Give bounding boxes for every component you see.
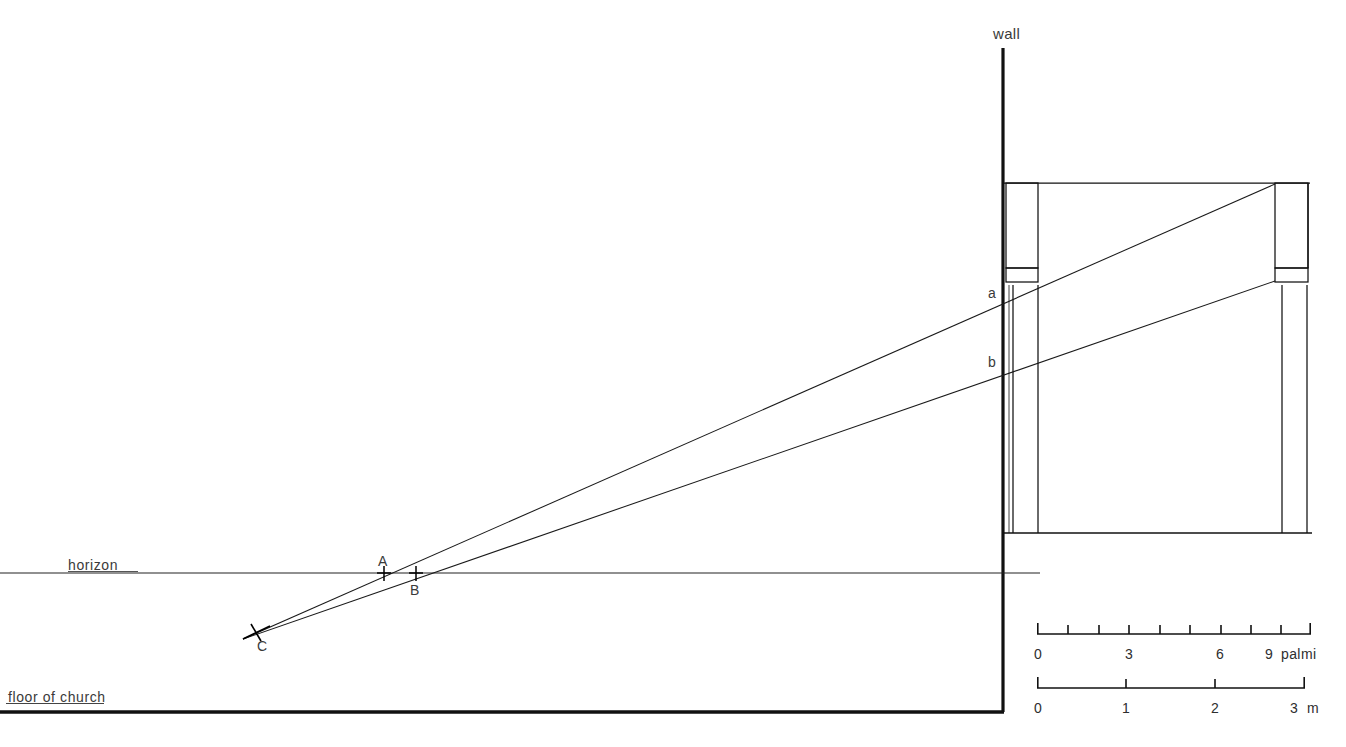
right-pier [1275,183,1308,533]
diagram-canvas: wall horizon floor of church a b A B C 0… [0,0,1346,747]
palmi-scale-bar [1037,623,1311,634]
left-pier-upper-box [1006,183,1038,268]
metre-tick-label-1: 1 [1122,701,1130,715]
point-a-label: a [988,286,996,300]
floor-of-church-label: floor of church [8,690,106,704]
palmi-tick-label-3: 3 [1125,647,1133,661]
static-drawing-layer [0,48,1312,712]
metre-tick-label-0: 0 [1034,701,1042,715]
marker-B [409,566,423,581]
point-b-label: b [988,355,996,369]
metre-unit-label: m [1307,701,1319,715]
perspective-section-drawing [0,0,1346,747]
palmi-tick-label-0: 0 [1034,647,1042,661]
metre-scale-bar [1037,677,1305,688]
palmi-tick-label-9: 9 [1265,647,1273,661]
point-A-label: A [378,554,387,568]
right-pier-capital-band [1275,268,1308,282]
left-pier-capital-band [1006,268,1038,282]
metre-tick-label-3: 3 [1290,701,1298,715]
point-B-label: B [410,583,419,597]
sight-line-lower [243,281,1275,639]
right-pier-upper-box [1275,183,1308,268]
wall-label: wall [993,26,1020,41]
sight-line-upper [243,184,1275,639]
horizon-label: horizon [68,558,118,572]
left-pier [1006,183,1038,533]
point-C-label: C [257,639,267,653]
palmi-tick-label-6: 6 [1216,647,1224,661]
metre-tick-label-2: 2 [1211,701,1219,715]
palmi-unit-label: palmi [1281,647,1316,661]
